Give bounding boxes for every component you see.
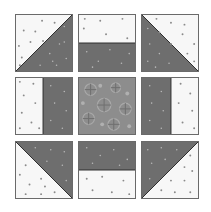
rectangle-pair-icon	[16, 78, 72, 134]
rectangle-pair-icon	[142, 78, 198, 134]
patch-center-floral	[78, 77, 136, 135]
patch-bottom-left-hst	[15, 141, 73, 199]
patch-bottom-right-hst	[141, 141, 199, 199]
patch-top-left-hst	[15, 14, 73, 72]
patch-bottom-middle-rects	[78, 141, 136, 199]
quilt-block	[0, 0, 211, 212]
patch-top-middle-rects	[78, 14, 136, 72]
floral-print-icon	[79, 78, 135, 134]
half-square-triangle-icon	[16, 142, 72, 198]
half-square-triangle-icon	[16, 15, 72, 71]
half-square-triangle-icon	[142, 15, 198, 71]
patch-middle-left-rects	[15, 77, 73, 135]
half-square-triangle-icon	[142, 142, 198, 198]
patch-middle-right-rects	[141, 77, 199, 135]
patch-top-right-hst	[141, 14, 199, 72]
rectangle-pair-icon	[79, 15, 135, 71]
rectangle-pair-icon	[79, 142, 135, 198]
